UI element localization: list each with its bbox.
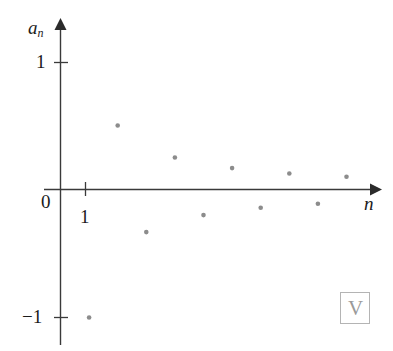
data-point: [258, 206, 263, 211]
y-tick-label-positive-one: 1: [36, 52, 46, 71]
x-tick-label-one: 1: [80, 207, 90, 226]
x-axis-label: n: [364, 194, 374, 213]
y-axis-label-main: a: [28, 17, 38, 38]
watermark-logo: V: [340, 292, 370, 324]
y-axis-arrowhead: [55, 18, 67, 30]
watermark-letter: V: [348, 296, 362, 321]
data-point: [173, 155, 178, 160]
sequence-scatter-figure: an n 1 −1 0 1 V: [0, 0, 393, 351]
origin-label: 0: [41, 192, 51, 211]
data-point: [344, 174, 349, 179]
y-axis-label-subscript: n: [38, 26, 44, 40]
plot-canvas: [0, 0, 393, 351]
data-point: [144, 230, 149, 235]
data-point: [287, 171, 292, 176]
y-axis-label: an: [28, 18, 44, 39]
data-point: [230, 166, 235, 171]
data-point: [87, 315, 92, 320]
data-point: [201, 213, 206, 218]
data-point: [316, 201, 321, 206]
data-point: [115, 123, 120, 128]
y-tick-label-negative-one: −1: [22, 307, 42, 326]
